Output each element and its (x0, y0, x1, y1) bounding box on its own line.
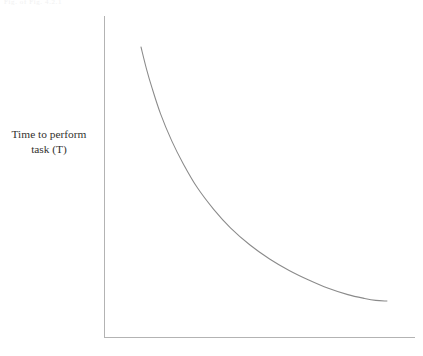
data-curve-time-to-perform-task (141, 47, 387, 301)
plot-area (0, 0, 423, 356)
figure-canvas: Fig. of Fig. 4.2.1 Time to perform task … (0, 0, 423, 356)
